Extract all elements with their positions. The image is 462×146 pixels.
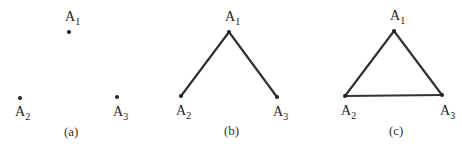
label-a1: A1	[65, 9, 80, 27]
label-a2: A2	[15, 104, 30, 122]
vertex-a2	[18, 96, 22, 100]
label-b1: A1	[225, 9, 240, 27]
label-a3: A3	[113, 104, 128, 122]
label-c2: A2	[341, 103, 356, 121]
caption-c: (c)	[389, 123, 403, 138]
edge-a1-a2	[181, 32, 229, 96]
vertex-a1	[67, 30, 71, 34]
vertex-c1	[392, 29, 396, 33]
vertex-c2	[343, 94, 347, 98]
caption-a: (a)	[64, 124, 78, 139]
vertex-b1	[227, 30, 231, 34]
panel-c: A1 A2 A3 (c)	[341, 8, 455, 138]
graph-diagram: A1 A2 A3 (a) A1 A2 A3 (b) A1 A2 A3 (c)	[0, 0, 462, 146]
label-b3: A3	[273, 104, 288, 122]
edge-a2-a3	[345, 95, 442, 96]
panel-a: A1 A2 A3 (a)	[15, 9, 128, 139]
vertex-a3	[115, 95, 119, 99]
edge-a1-a3	[394, 31, 442, 95]
vertex-c3	[440, 93, 444, 97]
panel-b: A1 A2 A3 (b)	[176, 9, 288, 138]
vertex-b3	[275, 95, 279, 99]
edge-a1-a3	[229, 32, 277, 97]
edge-a1-a2	[345, 31, 394, 96]
vertex-b2	[179, 94, 183, 98]
caption-b: (b)	[224, 123, 239, 138]
label-c3: A3	[440, 103, 455, 121]
label-c1: A1	[390, 8, 405, 26]
label-b2: A2	[176, 103, 191, 121]
